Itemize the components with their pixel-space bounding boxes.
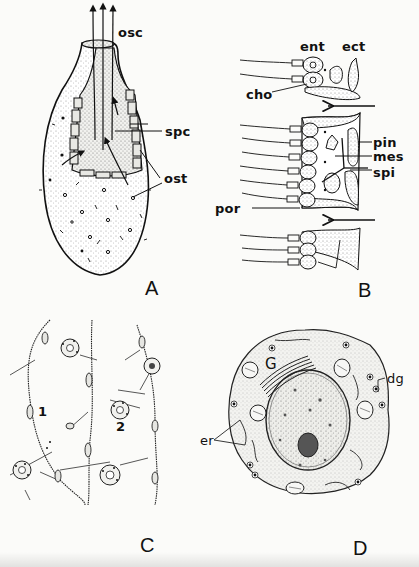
label-mes: mes [373, 150, 404, 163]
label-2: 2 [116, 420, 125, 433]
label-ent: ent [300, 40, 325, 53]
label-osc: osc [118, 26, 143, 39]
label-ost: ost [164, 172, 187, 185]
label-spc: spc [165, 125, 190, 138]
panel-letter-b: B [358, 280, 371, 300]
label-er: er [200, 434, 214, 447]
cell-ultrastructure-illustration [210, 300, 419, 567]
label-dg: dg [387, 372, 404, 385]
panel-d: G dg er D [210, 300, 419, 567]
page-bleed-through [0, 552, 419, 567]
panel-letter-a: A [145, 278, 158, 298]
label-cho: cho [246, 88, 273, 101]
label-1: 1 [38, 405, 47, 418]
panel-b: ent ect cho pin mes spi por B [210, 0, 419, 300]
label-por: por [215, 202, 240, 215]
label-spi: spi [373, 166, 395, 179]
label-ect: ect [342, 40, 365, 53]
panel-c: 1 2 C [0, 300, 210, 567]
sponge-body-illustration [0, 0, 210, 300]
cell-network-illustration [0, 300, 210, 567]
panel-a: osc spc ost A [0, 0, 210, 300]
label-pin: pin [373, 136, 397, 149]
label-G: G [265, 358, 277, 371]
